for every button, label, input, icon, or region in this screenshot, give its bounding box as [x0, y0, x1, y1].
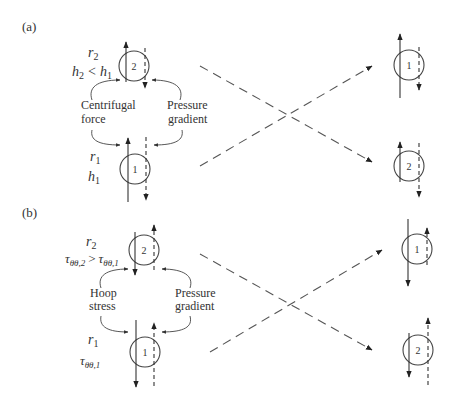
panel-b-eddy-1-left: 1: [130, 320, 160, 387]
svg-text:2: 2: [416, 345, 421, 356]
curved-arrow-icon: [101, 316, 128, 332]
svg-text:1: 1: [407, 60, 412, 71]
curved-arrow-icon: [162, 316, 191, 332]
panel-b-eddy-2-right: 2: [403, 318, 433, 385]
exchange-arrow-down-icon: [200, 254, 372, 350]
panel-b-right-force-line2: gradient: [175, 299, 215, 313]
svg-text:1: 1: [415, 244, 420, 255]
svg-text:2: 2: [407, 161, 412, 172]
svg-text:2: 2: [142, 245, 147, 256]
panel-b-tag: (b): [22, 205, 37, 220]
panel-a-eddy-2-right: 2: [394, 142, 424, 197]
panel-a-left-force-line1: Centrifugal: [81, 98, 136, 112]
svg-text:1: 1: [133, 164, 138, 175]
exchange-arrow-up-icon: [200, 66, 372, 166]
panel-a-left-force-line2: force: [81, 112, 106, 126]
panel-b-tau-relation: τθθ,2>τθθ,1: [65, 251, 119, 268]
panel-b: (b) r2 τθθ,2>τθθ,1 2 Hoop stress Pressur…: [22, 205, 433, 387]
panel-b-r2-label: r2: [86, 234, 96, 251]
panel-a-right-force-line2: gradient: [168, 112, 208, 126]
curved-arrow-icon: [152, 80, 181, 100]
panel-a-eddy-2-left: 2: [119, 42, 149, 88]
panel-a-right-force-line1: Pressure: [167, 98, 208, 112]
panel-b-eddy-2-left: 2: [129, 225, 159, 275]
panel-a-r2-label: r2: [88, 45, 98, 62]
panel-a-eddy-1-left: 1: [120, 137, 150, 202]
panel-b-eddy-1-right: 1: [402, 219, 432, 286]
panel-a-h-relation: h2<h1: [72, 64, 112, 81]
panel-a-r1-label: r1: [90, 149, 100, 166]
svg-text:1: 1: [143, 347, 148, 358]
panel-a-h1-label: h1: [88, 169, 100, 186]
curved-arrow-icon: [91, 80, 120, 100]
panel-a-eddy-1-right: 1: [394, 34, 424, 98]
svg-text:2: 2: [132, 61, 137, 72]
panel-a: (a) r2 h2<h1 2 Centrifugal force Pressur…: [22, 19, 424, 202]
panel-b-tau1-label: τθθ,1: [80, 353, 100, 370]
panel-b-left-force-line2: stress: [89, 299, 116, 313]
curved-arrow-icon: [92, 130, 120, 145]
panel-b-left-force-line1: Hoop: [90, 286, 117, 300]
eddy-exchange-diagram: (a) r2 h2<h1 2 Centrifugal force Pressur…: [0, 0, 460, 402]
panel-a-tag: (a): [22, 19, 36, 34]
curved-arrow-icon: [154, 130, 182, 145]
exchange-arrow-up-icon: [210, 250, 382, 352]
panel-b-r1-label: r1: [88, 332, 98, 349]
panel-b-right-force-line1: Pressure: [175, 286, 216, 300]
